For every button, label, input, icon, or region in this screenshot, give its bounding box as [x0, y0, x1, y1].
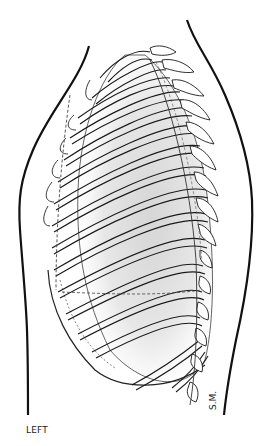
artist-signature: S.M.	[208, 391, 218, 410]
side-label: LEFT	[26, 425, 48, 435]
ribcage-illustration	[0, 0, 271, 446]
